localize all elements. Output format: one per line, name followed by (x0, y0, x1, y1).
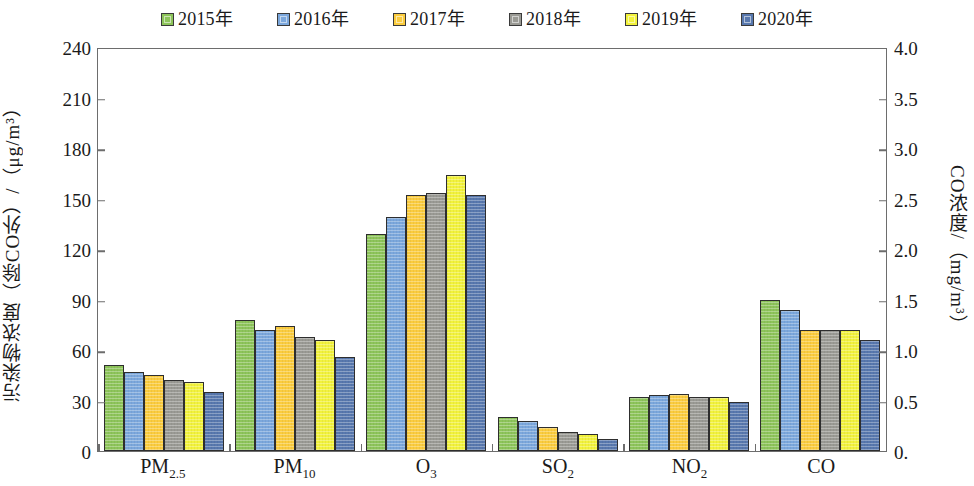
plot-area: 03060901201501802102400.0.51.01.52.02.53… (97, 48, 887, 452)
left-axis-tick-label: 210 (45, 89, 98, 111)
bar (235, 320, 255, 451)
x-axis-label-co: CO (755, 455, 887, 485)
bar (124, 372, 144, 451)
legend-item[interactable]: 2020年 (741, 10, 813, 28)
x-axis-tick-mark (755, 444, 757, 451)
left-axis-title-text: 污染物浓度（除CO外）/（μg/m³） (0, 97, 26, 402)
chart-legend: 2015年2016年2017年2018年2019年2020年 (0, 6, 974, 32)
bar (104, 365, 124, 451)
right-axis-tick-label: 2.0 (886, 240, 944, 262)
x-axis-labels: PM2.5PM10O3SO2NO2CO (97, 455, 887, 485)
left-axis-tick-label: 90 (45, 291, 98, 313)
left-axis-tick-label: 120 (45, 240, 98, 262)
bar (598, 439, 618, 451)
legend-swatch-icon (393, 13, 406, 26)
bar (780, 310, 800, 451)
legend-item[interactable]: 2018年 (509, 10, 581, 28)
right-axis-tick-mark (879, 149, 886, 151)
left-axis-tick-mark (98, 351, 105, 353)
legend-swatch-icon (161, 13, 174, 26)
bar (255, 330, 275, 451)
legend-swatch-icon (277, 13, 290, 26)
bar-group-no2 (623, 49, 754, 451)
legend-item[interactable]: 2017年 (393, 10, 465, 28)
left-axis-tick-mark (98, 402, 105, 404)
bar (840, 330, 860, 451)
right-axis-tick-mark (879, 351, 886, 353)
x-axis-label-so2: SO2 (492, 455, 624, 485)
right-axis-title-text: CO浓度/（mg/m³） (944, 165, 971, 335)
left-axis-tick-label: 150 (45, 190, 98, 212)
bar (578, 434, 598, 451)
left-axis-tick-label: 180 (45, 139, 98, 161)
bar (315, 340, 335, 451)
bar (335, 357, 355, 451)
bar (649, 395, 669, 451)
bar (669, 394, 689, 451)
bar (386, 217, 406, 451)
bar (406, 195, 426, 451)
legend-item-label: 2017年 (410, 10, 465, 28)
bar (426, 193, 446, 451)
right-axis-tick-label: 1.5 (886, 291, 944, 313)
x-axis-label-pm2-5: PM2.5 (97, 455, 229, 485)
bar (446, 175, 466, 451)
x-axis-label-o3: O3 (360, 455, 492, 485)
left-axis-tick-mark (98, 250, 105, 252)
legend-item[interactable]: 2015年 (161, 10, 233, 28)
bar (729, 402, 749, 451)
left-axis-tick-label: 240 (45, 38, 98, 60)
bar (800, 330, 820, 451)
legend-swatch-icon (625, 13, 638, 26)
legend-item[interactable]: 2019年 (625, 10, 697, 28)
legend-item-label: 2020年 (758, 10, 813, 28)
x-axis-tick-mark (98, 444, 100, 451)
right-axis-tick-label: 3.5 (886, 89, 944, 111)
bar (558, 432, 578, 451)
bar (538, 427, 558, 451)
legend-item-label: 2015年 (178, 10, 233, 28)
bar-group-o3 (361, 49, 492, 451)
bar-group-co (755, 49, 886, 451)
legend-item[interactable]: 2016年 (277, 10, 349, 28)
x-axis-tick-mark (229, 444, 231, 451)
bar (860, 340, 880, 451)
right-axis-tick-label: 2.5 (886, 190, 944, 212)
bar (498, 417, 518, 451)
legend-item-label: 2019年 (642, 10, 697, 28)
bar (366, 234, 386, 451)
bar (760, 300, 780, 452)
bar (518, 421, 538, 451)
left-axis-tick-label: 30 (45, 392, 98, 414)
bar-group-pm2-5 (98, 49, 229, 451)
x-axis-tick-mark (361, 444, 363, 451)
right-axis-tick-label: 0.5 (886, 392, 944, 414)
left-axis-tick-mark (98, 149, 105, 151)
bar (204, 392, 224, 451)
right-axis-tick-mark (879, 250, 886, 252)
bar (820, 330, 840, 451)
right-axis-title: CO浓度/（mg/m³） (942, 48, 972, 452)
legend-swatch-icon (509, 13, 522, 26)
left-axis-tick-mark (98, 301, 105, 303)
x-axis-tick-mark (623, 444, 625, 451)
emissions-bar-chart: 2015年2016年2017年2018年2019年2020年 污染物浓度（除CO… (0, 0, 974, 486)
bar (629, 397, 649, 451)
right-axis-tick-mark (879, 402, 886, 404)
left-axis-tick-label: 0 (45, 442, 98, 464)
bar (275, 326, 295, 451)
right-axis-tick-label: 3.0 (886, 139, 944, 161)
bar-group-pm10 (229, 49, 360, 451)
left-axis-tick-label: 60 (45, 341, 98, 363)
bar (466, 195, 486, 451)
legend-item-label: 2018年 (526, 10, 581, 28)
x-axis-label-pm10: PM10 (229, 455, 361, 485)
left-axis-title: 污染物浓度（除CO外）/（μg/m³） (0, 48, 26, 452)
x-axis-label-no2: NO2 (624, 455, 756, 485)
left-axis-tick-mark (98, 200, 105, 202)
left-axis-tick-mark (98, 99, 105, 101)
bar-groups (98, 49, 886, 451)
legend-item-label: 2016年 (294, 10, 349, 28)
right-axis-tick-label: 1.0 (886, 341, 944, 363)
right-axis-tick-mark (879, 301, 886, 303)
